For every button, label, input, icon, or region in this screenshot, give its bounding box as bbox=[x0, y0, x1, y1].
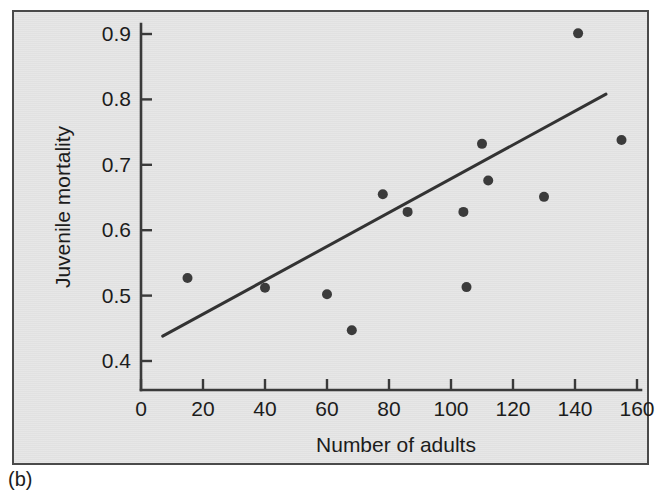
data-point bbox=[183, 273, 193, 283]
data-point bbox=[458, 207, 468, 217]
y-axis-ticks bbox=[141, 34, 152, 361]
x-tick-label: 160 bbox=[619, 397, 654, 420]
data-point bbox=[260, 283, 270, 293]
y-axis-tick-labels: 0.40.50.60.70.80.9 bbox=[102, 22, 132, 372]
x-axis-tick-labels: 020406080100120140160 bbox=[135, 397, 654, 420]
figure-container: 0.40.50.60.70.80.9 020406080100120140160… bbox=[0, 0, 661, 497]
data-point bbox=[378, 189, 388, 199]
y-tick-label: 0.5 bbox=[102, 284, 131, 307]
x-tick-label: 20 bbox=[191, 397, 214, 420]
data-point bbox=[539, 192, 549, 202]
data-point bbox=[347, 325, 357, 335]
scatter-plot: 0.40.50.60.70.80.9 020406080100120140160… bbox=[0, 0, 661, 497]
data-point bbox=[573, 28, 583, 38]
x-tick-label: 120 bbox=[495, 397, 530, 420]
x-axis-ticks bbox=[141, 379, 637, 390]
y-tick-label: 0.9 bbox=[102, 22, 131, 45]
x-tick-label: 140 bbox=[557, 397, 592, 420]
x-tick-label: 0 bbox=[135, 397, 147, 420]
x-tick-label: 80 bbox=[377, 397, 400, 420]
figure-caption: (b) bbox=[8, 468, 32, 491]
y-tick-label: 0.8 bbox=[102, 87, 131, 110]
y-tick-label: 0.7 bbox=[102, 153, 131, 176]
data-point bbox=[477, 139, 487, 149]
y-axis-title: Juvenile mortality bbox=[51, 125, 74, 288]
x-tick-label: 40 bbox=[253, 397, 276, 420]
data-point bbox=[462, 282, 472, 292]
x-tick-label: 100 bbox=[433, 397, 468, 420]
data-point bbox=[617, 135, 627, 145]
data-point bbox=[403, 207, 413, 217]
y-tick-label: 0.6 bbox=[102, 218, 131, 241]
data-point bbox=[483, 175, 493, 185]
data-point bbox=[322, 289, 332, 299]
x-axis-title: Number of adults bbox=[316, 433, 476, 456]
y-tick-label: 0.4 bbox=[102, 349, 132, 372]
x-tick-label: 60 bbox=[315, 397, 338, 420]
regression-line bbox=[163, 94, 606, 336]
